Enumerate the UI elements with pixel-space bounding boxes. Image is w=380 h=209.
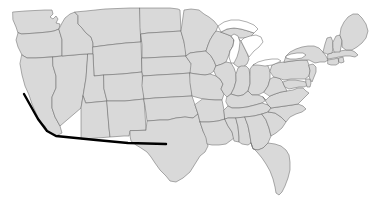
- state-az[interactable]: [81, 96, 110, 139]
- state-ct[interactable]: [328, 58, 339, 65]
- state-co[interactable]: [104, 72, 144, 101]
- state-wa[interactable]: [13, 10, 60, 34]
- state-ar[interactable]: [195, 99, 225, 122]
- state-fl[interactable]: [251, 143, 290, 195]
- us-map-svg: [0, 0, 380, 209]
- state-wy[interactable]: [93, 42, 142, 76]
- state-me[interactable]: [340, 14, 368, 50]
- state-vt[interactable]: [323, 37, 333, 54]
- states-layer: [13, 8, 368, 195]
- state-md[interactable]: [283, 80, 308, 89]
- state-sd[interactable]: [141, 31, 186, 58]
- state-ok[interactable]: [144, 96, 198, 121]
- state-ks[interactable]: [142, 73, 192, 99]
- state-de[interactable]: [306, 79, 311, 87]
- state-nj[interactable]: [309, 64, 316, 82]
- state-ri[interactable]: [339, 57, 344, 63]
- us-map-container: [0, 0, 380, 209]
